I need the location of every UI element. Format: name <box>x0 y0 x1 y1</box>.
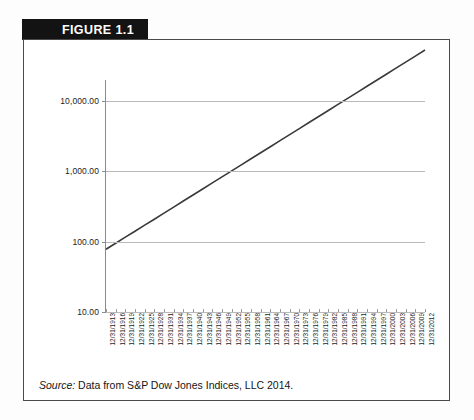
figure-banner: FIGURE 1.1 <box>22 19 148 40</box>
figure-frame <box>23 39 450 401</box>
source-note: Source: Data from S&P Dow Jones Indices,… <box>39 379 293 391</box>
source-text: Data from S&P Dow Jones Indices, LLC 201… <box>78 379 293 391</box>
source-label: Source: <box>39 379 75 391</box>
figure-banner-label: FIGURE 1.1 <box>36 23 134 37</box>
